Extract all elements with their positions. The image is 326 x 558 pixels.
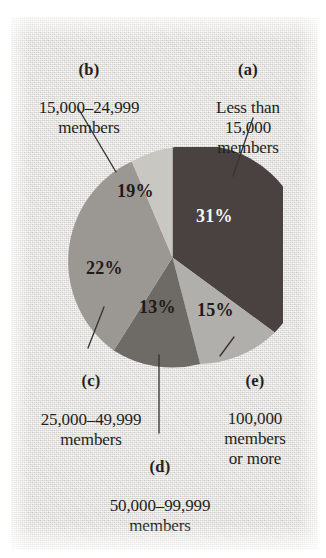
slice-description-d: 50,000–99,999 members (110, 496, 211, 535)
slice-key-e: (e) (206, 371, 304, 390)
pie-chart-figure: 31% 19% 22% 13% 15% (a) Less than 15,000… (0, 0, 326, 558)
slice-percent-e: 15% (197, 300, 234, 321)
slice-description-a: Less than 15,000 members (216, 98, 280, 156)
slice-key-c: (c) (16, 371, 166, 390)
slice-key-b: (b) (16, 60, 162, 79)
slice-percent-d: 13% (139, 297, 176, 318)
slice-label-a: (a) Less than 15,000 members (196, 41, 300, 157)
slice-description-b: 15,000–24,999 members (39, 98, 140, 137)
slice-description-e: 100,000 members or more (224, 409, 286, 467)
slice-label-c: (c) 25,000–49,999 members (16, 352, 166, 450)
slice-percent-b: 19% (117, 181, 154, 202)
slice-label-e: (e) 100,000 members or more (206, 352, 304, 468)
slice-key-a: (a) (196, 60, 300, 79)
slice-percent-c: 22% (86, 258, 123, 279)
slice-label-b: (b) 15,000–24,999 members (16, 41, 162, 138)
slice-percent-a: 31% (196, 206, 233, 227)
